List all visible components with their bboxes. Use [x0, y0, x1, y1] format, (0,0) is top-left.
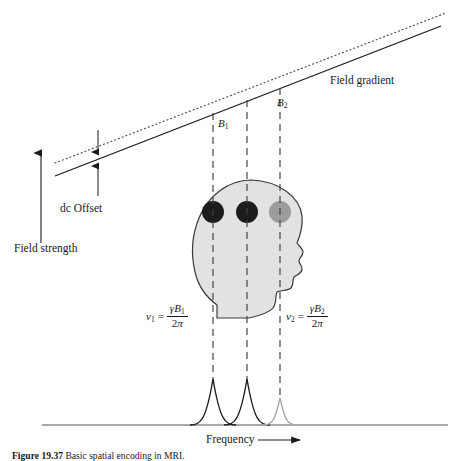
figure-caption: Figure 19.37 Basic spatial encoding in M… [12, 450, 185, 461]
equation-nu1: ν1 = γB1 2π [146, 303, 188, 330]
equation-nu2: ν2 = γB2 2π [286, 303, 328, 330]
b2-label-subscript: 2 [284, 101, 288, 110]
figure-caption-number: 19.37 [41, 450, 63, 461]
spectral-peak-2 [224, 379, 270, 425]
diagram-canvas [0, 0, 457, 461]
figure-caption-text: Basic spatial encoding in MRI. [65, 450, 184, 461]
equation-nu1-numerator-text: γB [170, 302, 181, 314]
equation-nu1-numerator-subscript: 1 [181, 307, 185, 316]
equation-nu2-subscript: 2 [291, 314, 295, 323]
b2-label-text: B [277, 96, 284, 108]
figure-caption-label: Figure [12, 450, 39, 461]
equation-nu1-fraction: γB1 2π [167, 303, 188, 330]
head-profile [193, 180, 303, 318]
equation-nu1-lhs: ν1 [146, 310, 155, 324]
frequency-axis-label: Frequency [206, 433, 255, 445]
equation-nu1-equals: = [158, 310, 164, 322]
spectral-peak-1 [190, 379, 236, 425]
equation-nu1-denominator: 2π [169, 318, 186, 329]
equation-nu2-numerator-subscript: 2 [321, 307, 325, 316]
equation-nu2-equals: = [298, 310, 304, 322]
b1-label-text: B [218, 117, 225, 129]
equation-nu2-denominator-pi: π [317, 317, 323, 329]
equation-nu1-denominator-pi: π [177, 317, 183, 329]
b1-label: B1 [218, 118, 228, 131]
equation-nu2-fraction: γB2 2π [307, 303, 328, 330]
field-gradient-label: Field gradient [330, 74, 394, 86]
spectral-peak-3 [263, 398, 297, 425]
dc-offset-label: dc Offset [60, 202, 102, 214]
b2-label: B2 [277, 97, 287, 110]
equation-nu2-numerator: γB2 [307, 303, 328, 315]
equation-nu1-subscript: 1 [151, 314, 155, 323]
mri-spatial-encoding-figure: Field gradient dc Offset Field strength … [0, 0, 457, 461]
equation-nu2-lhs: ν2 [286, 310, 295, 324]
equation-nu1-numerator: γB1 [167, 303, 188, 315]
b1-label-subscript: 1 [225, 122, 229, 131]
field-strength-label: Field strength [14, 242, 78, 254]
dotted-gradient-line [55, 13, 446, 163]
equation-nu2-numerator-text: γB [310, 302, 321, 314]
solid-gradient-line [55, 26, 441, 176]
equation-nu2-denominator: 2π [309, 318, 326, 329]
